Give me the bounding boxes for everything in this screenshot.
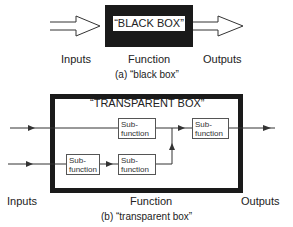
subfunction-box: Sub- function: [118, 154, 156, 175]
arrowhead-up-icon: [169, 143, 175, 150]
black-box-function-label: Function: [128, 54, 170, 65]
transparent-box-inputs-label: Inputs: [7, 196, 37, 207]
subfunction-label: Sub-: [121, 156, 153, 165]
output-arrow-icon: [193, 16, 243, 36]
arrowhead-icon: [178, 125, 185, 131]
subfunction-label: Sub-: [195, 120, 226, 129]
transparent-box-outputs-label: Outputs: [241, 196, 280, 207]
black-box-caption: (a) “black box”: [115, 70, 179, 80]
transparent-box-function-label: Function: [130, 196, 172, 207]
subfunction-label: function: [121, 129, 153, 138]
subfunction-box: Sub- function: [66, 154, 100, 175]
arrowhead-icon: [106, 161, 113, 167]
subfunction-box: Sub- function: [118, 118, 156, 139]
subfunction-label: Sub-: [121, 120, 153, 129]
black-box-inputs-label: Inputs: [61, 54, 91, 65]
arrowhead-icon: [26, 161, 33, 167]
black-box-outputs-label: Outputs: [203, 54, 242, 65]
black-box-title: “BLACK BOX”: [113, 16, 185, 31]
subfunction-label: Sub-: [69, 156, 97, 165]
arrowhead-icon: [28, 125, 35, 131]
output-arrowhead-icon: [263, 125, 271, 131]
subfunction-label: function: [121, 165, 153, 174]
input-arrow-icon: [50, 16, 100, 36]
subfunction-label: function: [69, 165, 97, 174]
subfunction-label: function: [195, 129, 226, 138]
transparent-box-diagram: [8, 97, 275, 191]
transparent-box-title: “TRANSPARENT BOX”: [90, 98, 205, 109]
diagram-canvas: [0, 0, 293, 227]
subfunction-box: Sub- function: [192, 118, 229, 139]
transparent-box-frame: [53, 97, 241, 191]
transparent-box-caption: (b) “transparent box”: [101, 212, 192, 222]
